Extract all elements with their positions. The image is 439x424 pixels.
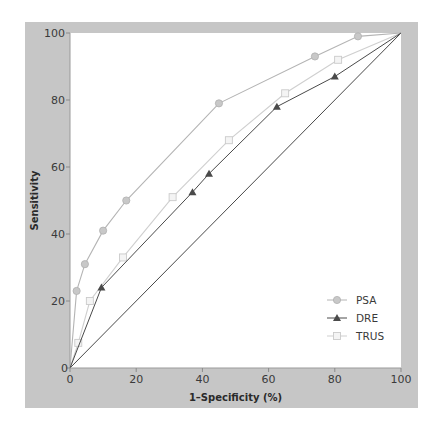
square-marker-icon — [225, 137, 232, 144]
x-axis-title: 1–Specificity (%) — [189, 392, 282, 403]
legend: PSADRETRUS — [327, 294, 384, 342]
circle-marker-icon — [81, 261, 88, 268]
square-marker-icon — [282, 90, 289, 97]
legend-label: PSA — [356, 294, 377, 306]
legend-label: TRUS — [355, 330, 384, 342]
legend-label: DRE — [356, 312, 378, 324]
circle-marker-icon — [354, 33, 361, 40]
y-tick-label: 40 — [51, 228, 65, 241]
square-marker-icon — [169, 194, 176, 201]
circle-marker-icon — [215, 100, 222, 107]
square-marker-icon — [335, 56, 342, 63]
x-tick-label: 100 — [391, 373, 412, 386]
x-tick-label: 40 — [195, 373, 209, 386]
square-marker-icon — [86, 298, 93, 305]
y-tick-label: 60 — [51, 161, 65, 174]
square-legend-icon — [334, 333, 341, 340]
square-marker-icon — [119, 254, 126, 261]
x-tick-label: 20 — [129, 373, 143, 386]
x-tick-label: 80 — [328, 373, 342, 386]
roc-chart: 0204060801000204060801001–Specificity (%… — [0, 0, 439, 424]
circle-marker-icon — [100, 227, 107, 234]
y-axis-title: Sensitivity — [29, 170, 40, 230]
y-tick-label: 100 — [44, 27, 65, 40]
x-tick-label: 60 — [262, 373, 276, 386]
circle-legend-icon — [333, 296, 340, 303]
circle-marker-icon — [311, 53, 318, 60]
y-tick-label: 80 — [51, 94, 65, 107]
x-tick-label: 0 — [67, 373, 74, 386]
circle-marker-icon — [73, 287, 80, 294]
circle-marker-icon — [123, 197, 130, 204]
y-tick-label: 20 — [51, 295, 65, 308]
